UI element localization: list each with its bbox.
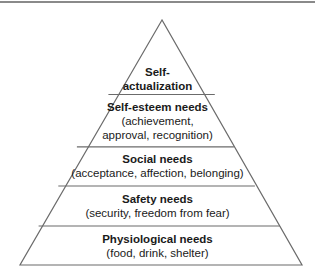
tier-title: Self-esteem needs	[0, 100, 315, 114]
tier-social: Social needs (acceptance, affection, bel…	[0, 152, 315, 180]
tier-title: Physiological needs	[0, 232, 315, 246]
tier-description: (food, drink, shelter)	[0, 246, 315, 260]
tier-safety: Safety needs (security, freedom from fea…	[0, 192, 315, 220]
tier-physiological: Physiological needs (food, drink, shelte…	[0, 232, 315, 260]
tier-title: Safety needs	[0, 192, 315, 206]
tier-description: (acceptance, affection, belonging)	[0, 166, 315, 180]
pyramid-triangle	[20, 20, 302, 265]
tier-description: (achievement, approval, recognition)	[0, 114, 315, 142]
tier-title: Self- actualization	[0, 65, 315, 93]
tier-self-actualization: Self- actualization	[0, 65, 315, 93]
tier-description: (security, freedom from fear)	[0, 206, 315, 220]
tier-title: Social needs	[0, 152, 315, 166]
tier-self-esteem: Self-esteem needs (achievement, approval…	[0, 100, 315, 142]
